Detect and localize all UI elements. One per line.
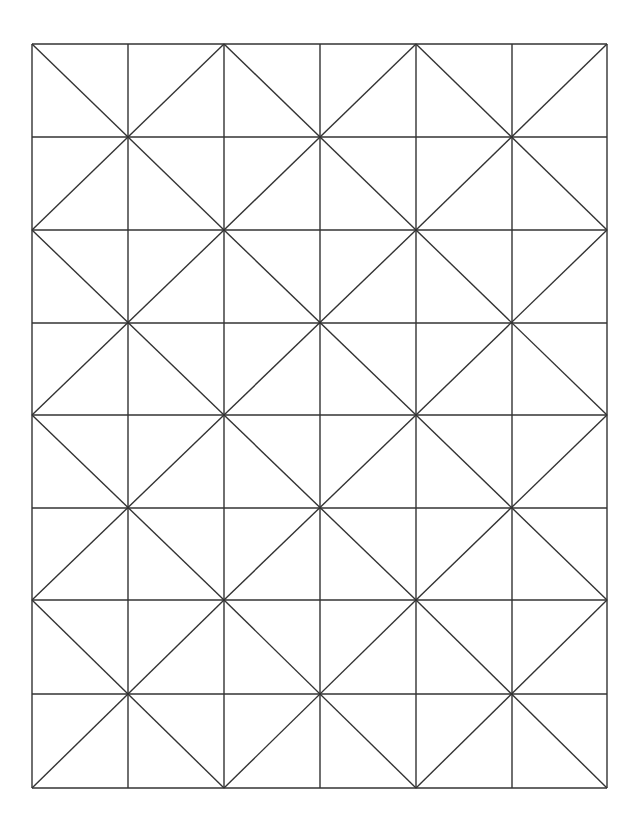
grid-pattern-diagram: [0, 0, 641, 830]
